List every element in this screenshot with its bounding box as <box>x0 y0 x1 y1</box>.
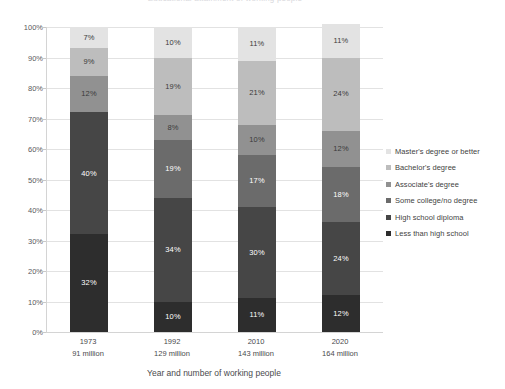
legend-swatch-icon <box>386 182 391 187</box>
bar-segment-value-label: 12% <box>81 90 96 98</box>
x-axis-category-label: 2010143 million <box>211 336 301 360</box>
legend-item-label: Bachelor's degree <box>395 163 456 172</box>
bar-segment-value-label: 24% <box>333 255 348 263</box>
legend-swatch-icon <box>386 165 391 170</box>
x-axis-category-year: 1992 <box>127 336 217 348</box>
bar-segment[interactable]: 21% <box>238 61 276 125</box>
bar-segment[interactable]: 12% <box>322 131 360 168</box>
legend-item[interactable]: Bachelor's degree <box>386 160 505 177</box>
legend-item[interactable]: Some college/no degree <box>386 193 505 210</box>
bar-segment[interactable]: 24% <box>322 58 360 131</box>
bar-segment-value-label: 30% <box>249 249 264 257</box>
legend-swatch-icon <box>386 231 391 236</box>
bar-segment-value-label: 9% <box>83 58 94 66</box>
bar-segment[interactable]: 12% <box>322 295 360 332</box>
bar-segment-value-label: 21% <box>249 89 264 97</box>
y-axis-tick-label: 50% <box>11 176 43 185</box>
x-axis-category-label: 1992129 million <box>127 336 217 360</box>
bar-column[interactable]: 11%24%12%18%24%12% <box>322 24 360 332</box>
y-axis-tick-label: 100% <box>11 23 43 32</box>
bar-column[interactable]: 10%19%8%19%34%10% <box>154 27 192 332</box>
bar-segment-value-label: 12% <box>333 310 348 318</box>
bar-segment-value-label: 11% <box>334 37 349 45</box>
y-axis-tick-label: 60% <box>11 145 43 154</box>
legend-item-label: Some college/no degree <box>395 196 477 205</box>
bar-segment-value-label: 11% <box>250 311 265 319</box>
legend-item-label: Less than high school <box>395 229 469 238</box>
x-axis-category-count: 129 million <box>127 348 217 360</box>
bar-segment[interactable]: 32% <box>70 234 108 332</box>
legend-item[interactable]: Master's degree or better <box>386 143 505 160</box>
chart-title: Educational attainment of working people <box>60 0 390 3</box>
legend-item-label: Master's degree or better <box>395 147 480 156</box>
x-axis-category-count: 91 million <box>43 348 133 360</box>
x-axis-category-label: 2020164 million <box>295 336 385 360</box>
x-axis-category-label: 197391 million <box>43 336 133 360</box>
bar-segment-value-label: 10% <box>165 39 180 47</box>
legend-item-label: Associate's degree <box>395 180 459 189</box>
bar-segment-value-label: 10% <box>249 136 264 144</box>
legend-swatch-icon <box>386 198 391 203</box>
y-axis-tick-label: 70% <box>11 115 43 124</box>
bar-segment-value-label: 12% <box>333 145 348 153</box>
legend-item[interactable]: Associate's degree <box>386 176 505 193</box>
bar-segment-value-label: 11% <box>250 40 265 48</box>
legend-item[interactable]: Less than high school <box>386 226 505 243</box>
bar-segment[interactable]: 10% <box>238 125 276 156</box>
bar-segment-value-label: 19% <box>165 83 180 91</box>
bar-segment-value-label: 34% <box>165 246 180 254</box>
bar-segment-value-label: 32% <box>81 279 96 287</box>
bar-column[interactable]: 11%21%10%17%30%11% <box>238 27 276 332</box>
legend-swatch-icon <box>386 149 391 154</box>
y-axis-tick-label: 40% <box>11 206 43 215</box>
bar-segment[interactable]: 30% <box>238 207 276 299</box>
bar-segment[interactable]: 11% <box>238 27 276 61</box>
y-axis-tick-label: 30% <box>11 237 43 246</box>
x-axis-category-count: 164 million <box>295 348 385 360</box>
bar-segment[interactable]: 19% <box>154 58 192 116</box>
bar-segment-value-label: 18% <box>333 191 348 199</box>
bar-segment[interactable]: 17% <box>238 155 276 207</box>
x-axis-title: Year and number of working people <box>46 368 382 378</box>
legend-swatch-icon <box>386 215 391 220</box>
bar-segment-value-label: 19% <box>165 165 180 173</box>
x-axis-category-year: 2010 <box>211 336 301 348</box>
bar-segment-value-label: 17% <box>249 177 264 185</box>
bar-segment-value-label: 24% <box>333 90 348 98</box>
bar-segment-value-label: 40% <box>81 170 96 178</box>
bar-segment[interactable]: 19% <box>154 140 192 198</box>
bar-segment[interactable]: 10% <box>154 27 192 58</box>
bar-segment[interactable]: 40% <box>70 112 108 234</box>
legend-item[interactable]: High school diploma <box>386 209 505 226</box>
legend-item-label: High school diploma <box>395 213 464 222</box>
y-axis-tick-label: 90% <box>11 54 43 63</box>
x-axis-category-year: 1973 <box>43 336 133 348</box>
y-axis-tick-label: 80% <box>11 84 43 93</box>
bar-segment-value-label: 7% <box>83 34 94 42</box>
x-axis-category-year: 2020 <box>295 336 385 348</box>
bar-segment[interactable]: 8% <box>154 115 192 139</box>
stacked-bar-chart: Educational attainment of working people… <box>0 0 505 389</box>
x-axis-category-count: 143 million <box>211 348 301 360</box>
bar-segment[interactable]: 12% <box>70 76 108 113</box>
bar-segment[interactable]: 10% <box>154 302 192 333</box>
bar-segment[interactable]: 7% <box>70 27 108 48</box>
plot-area: 7%9%12%40%32%10%19%8%19%34%10%11%21%10%1… <box>46 27 383 333</box>
bar-segment[interactable]: 34% <box>154 198 192 302</box>
bar-column[interactable]: 7%9%12%40%32% <box>70 27 108 332</box>
bar-segment-value-label: 8% <box>167 124 178 132</box>
bar-segment[interactable]: 11% <box>238 298 276 332</box>
chart-legend: Master's degree or betterBachelor's degr… <box>386 143 505 242</box>
y-axis-tick-label: 10% <box>11 298 43 307</box>
bar-segment-value-label: 10% <box>165 313 180 321</box>
bar-segment[interactable]: 24% <box>322 222 360 295</box>
bar-segment[interactable]: 9% <box>70 48 108 75</box>
bar-segment[interactable]: 18% <box>322 167 360 222</box>
y-axis-tick-label: 0% <box>11 328 43 337</box>
y-axis-tick-label: 20% <box>11 267 43 276</box>
bar-segment[interactable]: 11% <box>322 24 360 58</box>
